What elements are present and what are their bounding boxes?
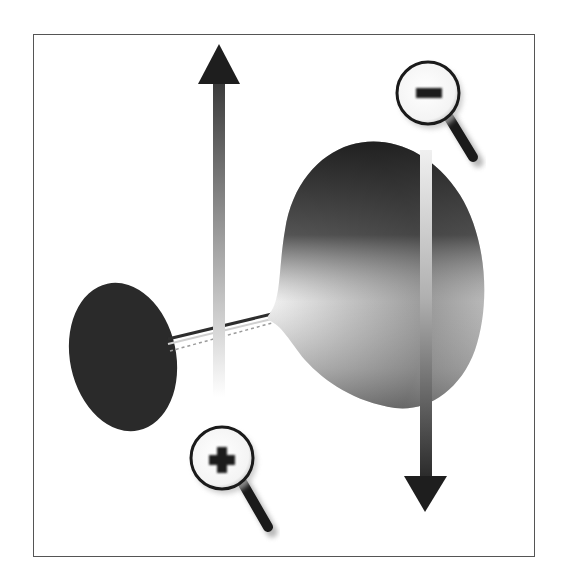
zoom-diagram [0,0,562,586]
zoom-out-icon[interactable] [397,62,478,162]
minus-icon [416,88,442,98]
cone-object [268,141,484,408]
zoom-in-icon[interactable] [191,427,272,532]
ellipse-object [56,273,191,442]
up-arrow [198,44,240,397]
